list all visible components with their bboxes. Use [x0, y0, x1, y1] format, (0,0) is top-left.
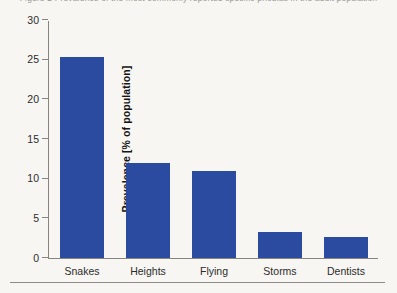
y-tick-mark — [42, 59, 48, 60]
bar[interactable] — [258, 232, 302, 258]
y-tick-label: 20 — [27, 93, 39, 105]
bar-slot: Snakes — [60, 18, 104, 258]
y-tick: 20 — [42, 98, 48, 99]
bar[interactable] — [126, 163, 170, 258]
x-tick-label: Dentists — [327, 265, 365, 277]
x-tick-label: Heights — [130, 265, 166, 277]
x-tick-label: Storms — [263, 265, 296, 277]
bottom-divider-rule — [10, 282, 385, 283]
y-tick-label: 30 — [27, 14, 39, 26]
figure-container: Figure 2 Prevalence of the most commonly… — [0, 0, 397, 293]
y-tick-mark — [42, 138, 48, 139]
y-tick: 5 — [42, 217, 48, 218]
x-tick-label: Flying — [200, 265, 228, 277]
bar-slot: Flying — [192, 18, 236, 258]
y-tick-label: 15 — [27, 133, 39, 145]
x-axis-line — [48, 258, 378, 259]
y-tick-mark — [42, 19, 48, 20]
bar[interactable] — [192, 171, 236, 258]
figure-caption-clipped: Figure 2 Prevalence of the most commonly… — [0, 0, 397, 4]
y-tick-label: 5 — [33, 212, 39, 224]
y-tick-mark — [42, 178, 48, 179]
y-tick-label: 10 — [27, 172, 39, 184]
bar-slot: Dentists — [324, 18, 368, 258]
y-tick-mark — [42, 257, 48, 258]
y-tick: 15 — [42, 138, 48, 139]
bar[interactable] — [324, 237, 368, 258]
bar[interactable] — [60, 57, 104, 258]
y-tick: 30 — [42, 19, 48, 20]
y-tick-mark — [42, 98, 48, 99]
x-tick-label: Snakes — [64, 265, 99, 277]
bar-group: SnakesHeightsFlyingStormsDentists — [49, 18, 378, 258]
y-tick-label: 0 — [33, 252, 39, 264]
bar-slot: Heights — [126, 18, 170, 258]
y-tick-mark — [42, 217, 48, 218]
plot-area: Prevalence [% of population] 05101520253… — [48, 18, 378, 259]
y-tick: 0 — [42, 257, 48, 258]
y-tick-label: 25 — [27, 53, 39, 65]
bar-slot: Storms — [258, 18, 302, 258]
y-tick: 10 — [42, 178, 48, 179]
y-tick: 25 — [42, 59, 48, 60]
